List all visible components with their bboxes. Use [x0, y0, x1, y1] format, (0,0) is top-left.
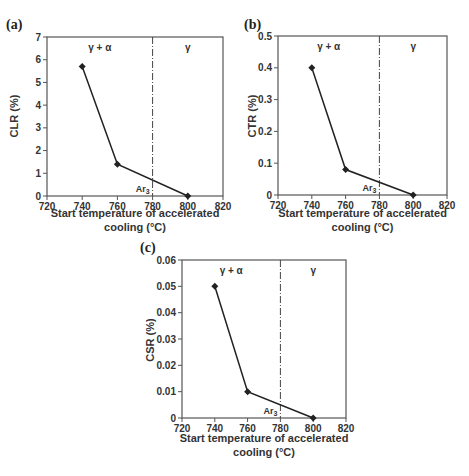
data-point-marker: [310, 415, 317, 422]
y-tick-label: 0.03: [157, 334, 177, 345]
ar3-label: Ar3: [263, 406, 277, 417]
y-tick-label: 0.06: [157, 255, 177, 266]
y-tick-label: 0.05: [157, 281, 177, 292]
x-axis-label-line2: cooling (°C): [233, 446, 295, 458]
region-label-gamma-alpha: γ + α: [220, 265, 244, 276]
y-tick-label: 0.01: [157, 386, 177, 397]
data-point-marker: [244, 388, 251, 395]
chart-csr: 00.010.020.030.040.050.06720740760780800…: [0, 0, 469, 476]
y-tick-label: 0: [170, 413, 176, 424]
data-point-marker: [211, 283, 218, 290]
y-axis-label: CSR (%): [144, 318, 156, 362]
region-label-gamma: γ: [310, 265, 316, 276]
y-tick-label: 0.02: [157, 360, 177, 371]
y-tick-label: 0.04: [157, 307, 177, 318]
data-line: [215, 286, 313, 418]
plot-frame: [182, 260, 346, 418]
x-axis-label-line1: Start temperature of accelerated: [180, 432, 349, 444]
